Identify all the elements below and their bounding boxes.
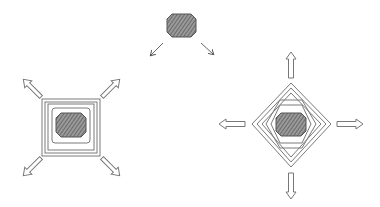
arrow-down-right-icon [98, 154, 123, 179]
diagram-canvas [0, 0, 380, 207]
arrow-up-right-icon [98, 76, 123, 101]
source-blob [167, 14, 196, 37]
diamond-center-blob [276, 113, 306, 136]
square-center-blob [56, 113, 86, 137]
split-arrow-left [151, 43, 163, 55]
arrow-up-icon [286, 52, 296, 78]
arrow-left-icon [219, 119, 245, 129]
square-variant [20, 76, 123, 179]
arrow-up-left-icon [20, 76, 45, 101]
split-arrow-right [201, 43, 213, 54]
arrow-down-left-icon [20, 154, 45, 179]
source-blob-group [151, 14, 213, 55]
diamond-variant [219, 52, 363, 199]
arrow-right-icon [337, 119, 363, 129]
arrow-down-icon [286, 173, 296, 199]
